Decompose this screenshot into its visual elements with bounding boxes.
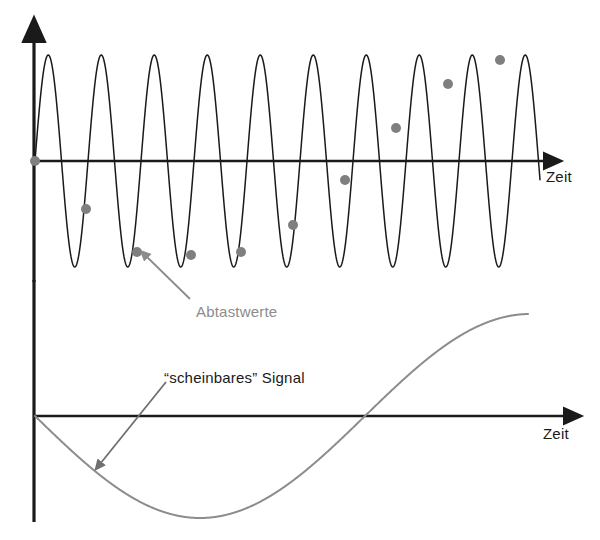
upper-plot-group	[30, 40, 545, 282]
lower-plot-group	[34, 280, 565, 522]
sample-point	[288, 220, 298, 230]
scheinbares-signal-label: “scheinbares” Signal	[164, 369, 305, 386]
abtastwerte-label: Abtastwerte	[196, 303, 277, 320]
sample-point	[495, 55, 505, 65]
aliasing-diagram: Zeit Zeit Abtastwerte “scheinbares” Sign…	[0, 0, 600, 540]
sample-point	[391, 123, 401, 133]
sample-point	[30, 156, 40, 166]
sample-point	[340, 175, 350, 185]
lower-x-axis-label: Zeit	[543, 425, 569, 442]
sample-point	[236, 247, 246, 257]
sample-point	[186, 250, 196, 260]
sample-point	[132, 247, 142, 257]
diagram-canvas	[0, 0, 600, 540]
sample-point	[443, 79, 453, 89]
sample-point	[81, 204, 91, 214]
upper-x-axis-label: Zeit	[546, 168, 572, 185]
scheinbares-signal-annotation-arrow	[100, 382, 166, 464]
